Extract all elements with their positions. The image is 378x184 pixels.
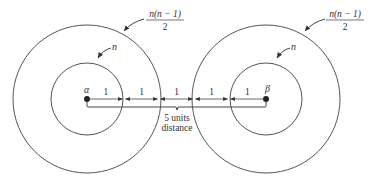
distance-brace: [87, 102, 266, 110]
alpha-outer-label-denominator: 2: [163, 22, 168, 32]
beta-outer-label-denominator: 2: [343, 22, 348, 32]
beta-outer-pointer: [305, 19, 325, 31]
segment-arrows: 11111: [89, 87, 264, 99]
segment-label: 1: [209, 87, 214, 97]
beta-inner-label: n: [291, 41, 296, 52]
alpha-outer-pointer: [124, 19, 144, 31]
distance-label-line1: 5 units: [164, 113, 190, 123]
segment-label: 1: [103, 87, 108, 97]
segment-label: 1: [245, 87, 250, 97]
alpha-outer-label-numerator: n(n − 1): [149, 9, 181, 20]
beta-inner-pointer: [277, 48, 290, 58]
segment-label: 1: [139, 87, 144, 97]
beta-outer-label-numerator: n(n − 1): [329, 9, 361, 20]
alpha-inner-pointer: [98, 48, 111, 58]
distance-label-line2: distance: [161, 123, 192, 133]
beta-label: β: [264, 83, 270, 94]
segment-label: 1: [174, 87, 179, 97]
alpha-label: α: [84, 84, 90, 95]
two-node-distance-diagram: α β 11111 5 units distance n n(n − 1) 2 …: [0, 0, 378, 184]
alpha-inner-label: n: [112, 41, 117, 52]
